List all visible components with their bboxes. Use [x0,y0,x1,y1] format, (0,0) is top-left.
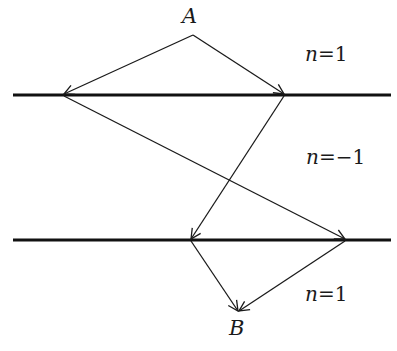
region-bottom-index-label: n=1 [305,282,347,306]
region-middle-eq: = [319,145,336,169]
region-bottom-value: 1 [335,282,348,306]
region-top-value: 1 [335,42,348,66]
ray-a-right [193,35,284,94]
region-middle-value: −1 [336,145,365,169]
ray-b-left [191,241,238,311]
region-middle-index-label: n=−1 [306,145,365,169]
region-bottom-var: n [305,282,318,306]
point-a-label: A [182,4,197,28]
ray-a-left [64,35,193,94]
point-b-label: B [229,316,244,340]
region-top-eq: = [318,42,335,66]
region-top-index-label: n=1 [305,42,347,66]
region-bottom-eq: = [318,282,335,306]
ray-diagram: A B n=1 n=−1 n=1 [0,0,397,351]
region-top-var: n [305,42,318,66]
region-middle-var: n [306,145,319,169]
